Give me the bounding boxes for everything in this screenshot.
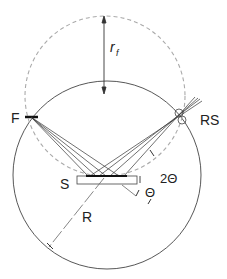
- theta-ray-line: [122, 185, 136, 196]
- focusing-circle: [25, 16, 185, 176]
- focusing-radius-arrow: [102, 16, 106, 94]
- sample-holder: [77, 176, 137, 184]
- focusing-radius-subscript: f: [116, 48, 120, 58]
- two-theta-tick: [150, 150, 154, 156]
- two-theta-label: 2Θ: [160, 171, 177, 186]
- diffracted-rays: [90, 97, 202, 176]
- receiving-slit-label: RS: [200, 112, 219, 128]
- source-label: F: [11, 110, 20, 126]
- incident-rays: [31, 117, 119, 176]
- diffraction-geometry-diagram: r f F RS S R 2Θ Θ: [0, 0, 227, 279]
- sample-label: S: [60, 176, 69, 192]
- theta-label: Θ: [145, 185, 155, 200]
- goniometer-radius-label: R: [82, 209, 92, 225]
- theta-arc-mark: [136, 190, 139, 196]
- goniometer-radius-line: [49, 178, 104, 247]
